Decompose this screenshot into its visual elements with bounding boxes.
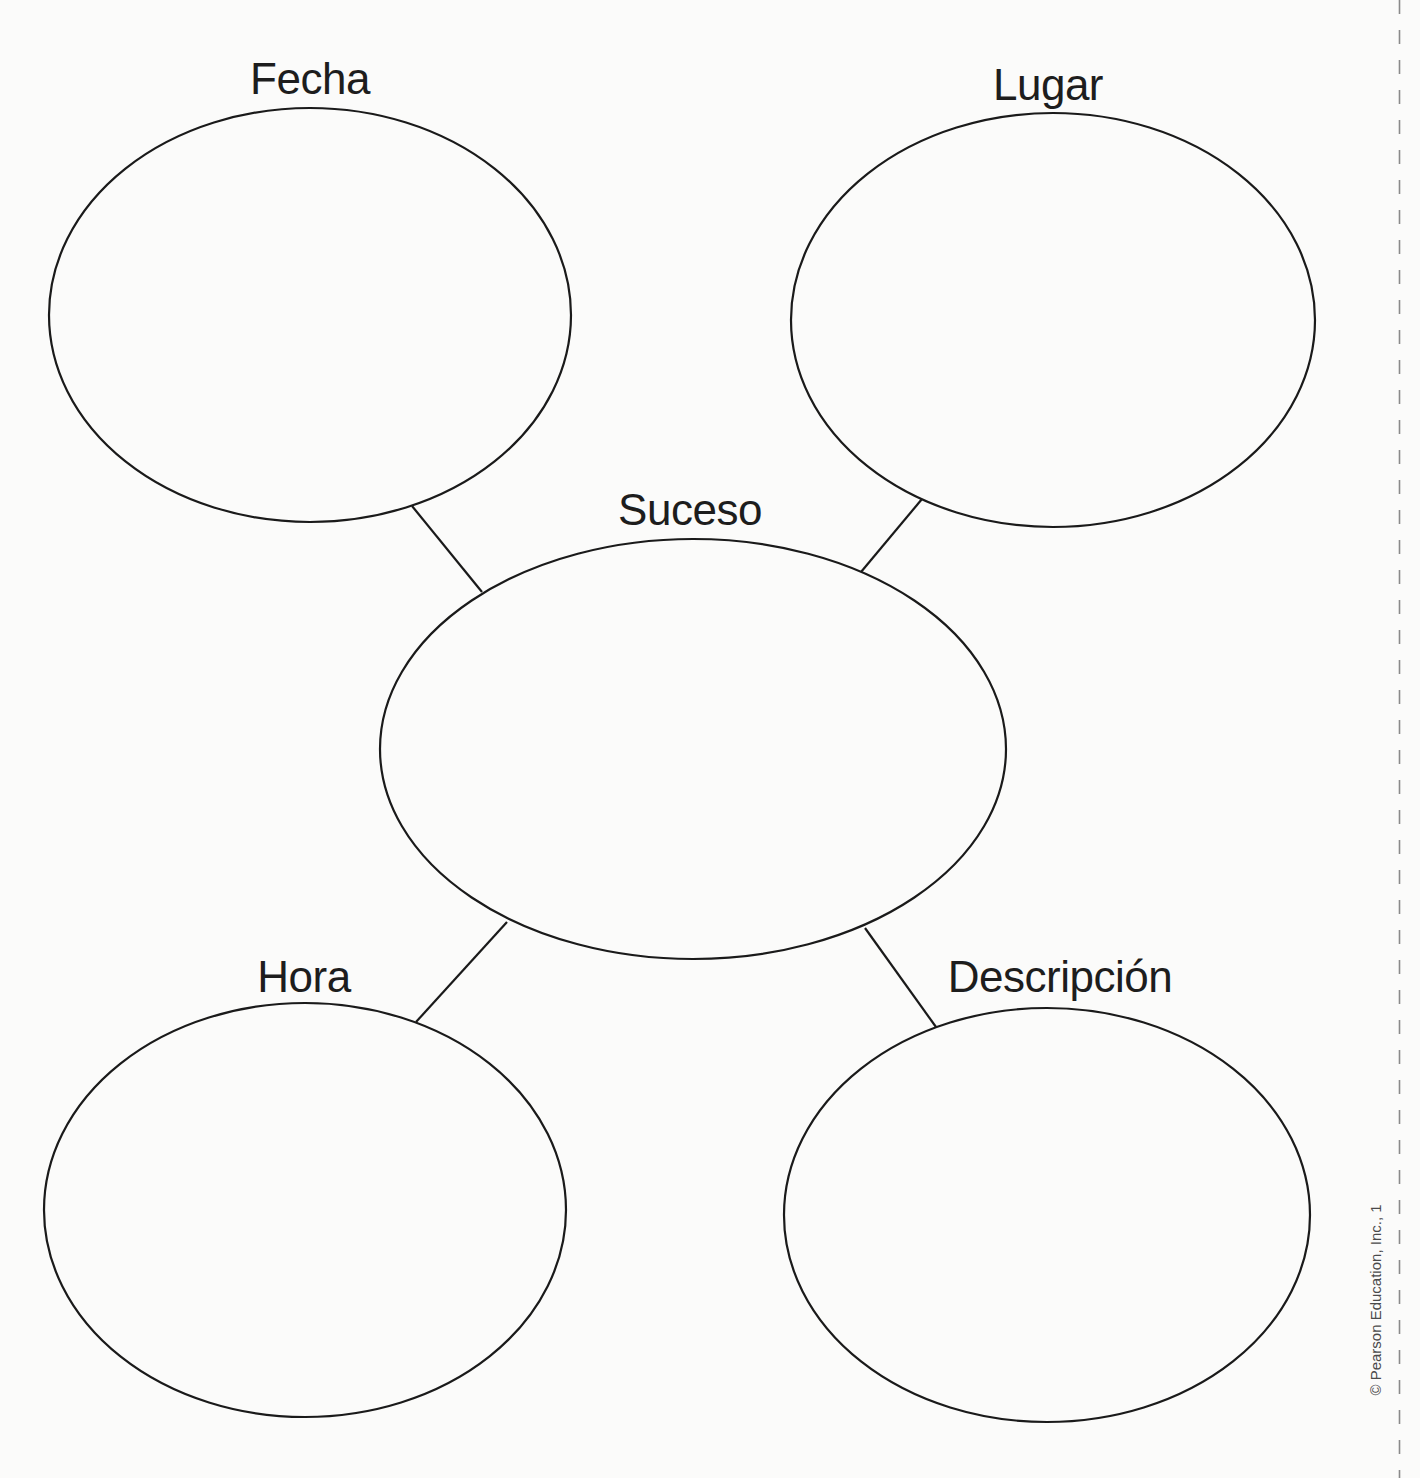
graphic-organizer-canvas [0, 0, 1420, 1478]
connector-fecha [412, 506, 482, 592]
label-suceso: Suceso [618, 488, 762, 532]
label-descripcion: Descripción [948, 955, 1172, 999]
ellipse-hora [44, 1003, 566, 1417]
ellipse-suceso [380, 539, 1006, 959]
connector-lugar [861, 499, 922, 572]
ellipse-descripcion [784, 1008, 1310, 1422]
label-hora: Hora [257, 955, 350, 999]
label-lugar: Lugar [993, 63, 1103, 107]
connector-descripcion [865, 928, 936, 1027]
label-fecha: Fecha [250, 57, 370, 101]
copyright-notice: © Pearson Education, Inc., 1 [1367, 1204, 1384, 1395]
connector-hora [416, 922, 507, 1022]
ellipse-fecha [49, 108, 571, 522]
node-ellipses [44, 108, 1315, 1422]
connector-lines [412, 499, 936, 1027]
ellipse-lugar [791, 113, 1315, 527]
dashed-cut-line [1398, 0, 1401, 1478]
